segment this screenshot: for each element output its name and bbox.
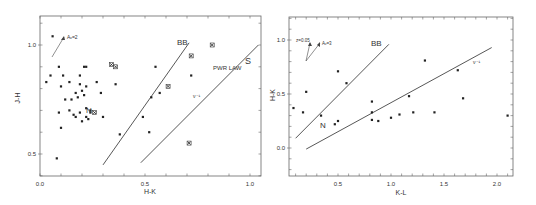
data-point: [79, 74, 81, 76]
right-label-av: Aᵥ=3: [322, 41, 332, 46]
data-point: [390, 117, 392, 119]
data-point: [150, 96, 152, 98]
left-data-points: [45, 35, 214, 159]
data-point: [75, 92, 77, 94]
right-data-points: [292, 59, 508, 125]
right-label-z: z=0.05: [296, 38, 310, 43]
data-point: [119, 133, 121, 135]
data-point: [79, 111, 81, 113]
data-point: [85, 85, 87, 87]
y-tick-label: 0.0: [277, 145, 286, 151]
data-point: [433, 111, 435, 113]
y-tick-label: 1.0: [28, 42, 37, 48]
left-axis-ticks: 0.00.51.00.51.0: [28, 16, 261, 187]
data-point-cross-mark: [114, 65, 117, 68]
data-point: [100, 92, 102, 94]
data-point: [62, 74, 64, 76]
model-line: [141, 45, 259, 163]
right-label-n: N: [320, 121, 326, 130]
x-tick-label: 0.5: [334, 181, 343, 187]
left-y-axis-label: J-H: [14, 93, 21, 104]
data-point-cross-mark: [188, 142, 191, 145]
data-point: [81, 90, 83, 92]
model-line: [296, 44, 389, 138]
data-point: [70, 98, 72, 100]
left-reddening-arrowhead-icon: [61, 36, 65, 40]
x-tick-label: 2.0: [493, 181, 502, 187]
left-label-s: S: [245, 56, 251, 66]
data-point: [52, 35, 54, 37]
left-x-axis-label: H-K: [144, 188, 156, 195]
data-point: [81, 120, 83, 122]
data-point: [337, 120, 339, 122]
data-point: [320, 115, 322, 117]
data-point: [142, 116, 144, 118]
data-point: [85, 116, 87, 118]
data-point: [73, 114, 75, 116]
data-point: [371, 119, 373, 121]
left-label-pwr-law: PWR LAW: [213, 65, 242, 71]
data-point: [68, 109, 70, 111]
left-label-bb: BB: [177, 38, 188, 47]
data-point: [60, 85, 62, 87]
left-plot-frame: [40, 16, 261, 176]
right-panel-hk-vs-kl: 0.51.01.52.00.00.51.0 K-L H-K N BB ν⁻¹ z…: [269, 17, 513, 196]
data-point: [96, 81, 98, 83]
data-point: [58, 111, 60, 113]
right-label-bb: BB: [371, 39, 382, 48]
x-tick-label: 1.0: [387, 181, 396, 187]
data-point: [457, 69, 459, 71]
model-line: [103, 43, 189, 165]
data-point: [64, 98, 66, 100]
left-label-n: N: [86, 106, 92, 115]
data-point: [334, 123, 336, 125]
data-point: [79, 83, 81, 85]
data-point: [345, 82, 347, 84]
data-point: [507, 115, 509, 117]
x-tick-label: 1.5: [440, 181, 449, 187]
data-point: [398, 113, 400, 115]
data-point: [58, 66, 60, 68]
data-point: [377, 120, 379, 122]
data-point: [154, 66, 156, 68]
data-point: [87, 118, 89, 120]
x-tick-label: 1.0: [246, 181, 255, 187]
data-point: [305, 91, 307, 93]
data-point: [371, 111, 373, 113]
data-point: [83, 94, 85, 96]
figure: 0.00.51.00.51.0 H-K J-H N BB PWR LAW S ν…: [0, 0, 536, 205]
data-point: [102, 116, 104, 118]
data-point: [85, 66, 87, 68]
data-point: [56, 157, 58, 159]
data-point: [75, 116, 77, 118]
data-point: [462, 97, 464, 99]
x-tick-label: 0.0: [36, 181, 45, 187]
data-point: [412, 111, 414, 113]
data-point-cross-mark: [211, 44, 214, 47]
data-point: [292, 107, 294, 109]
data-point: [337, 70, 339, 72]
data-point-cross-mark: [167, 85, 170, 88]
data-point: [408, 95, 410, 97]
data-point: [115, 83, 117, 85]
data-point-cross-mark: [93, 111, 96, 114]
data-point: [302, 111, 304, 113]
data-point: [77, 96, 79, 98]
right-model-lines: [296, 44, 492, 149]
right-y-axis-label: H-K: [269, 89, 276, 101]
left-model-lines: [103, 43, 258, 165]
data-point: [190, 74, 192, 76]
right-label-nu: ν⁻¹: [473, 59, 481, 65]
left-label-nu: ν⁻¹: [193, 93, 201, 99]
data-point: [83, 66, 85, 68]
x-tick-label: 0.5: [141, 181, 150, 187]
left-panel-jh-vs-hk: 0.00.51.00.51.0 H-K J-H N BB PWR LAW S ν…: [14, 16, 261, 195]
data-point-cross-mark: [190, 54, 193, 57]
y-tick-label: 0.5: [277, 91, 286, 97]
data-point: [159, 92, 161, 94]
data-point: [68, 81, 70, 83]
right-x-axis-label: K-L: [396, 189, 407, 196]
data-point: [49, 74, 51, 76]
y-tick-label: 0.5: [28, 151, 37, 157]
data-point: [60, 127, 62, 129]
